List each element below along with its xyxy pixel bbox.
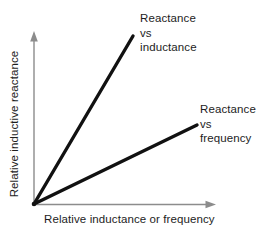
y-axis-arrowhead <box>30 31 38 42</box>
x-axis-arrowhead <box>206 201 217 209</box>
x-axis-title: Relative inductance or frequency <box>44 213 215 225</box>
origin-marker <box>32 202 37 207</box>
reactance-graph-figure: Reactance vs inductance Reactance vs fre… <box>0 0 267 237</box>
series-label-reactance-vs-frequency: Reactance vs frequency <box>200 102 256 146</box>
series-label-reactance-vs-inductance: Reactance vs inductance <box>140 11 197 55</box>
y-axis-title-container: Relative inductive reactance <box>0 40 28 208</box>
y-axis-title: Relative inductive reactance <box>8 51 20 198</box>
